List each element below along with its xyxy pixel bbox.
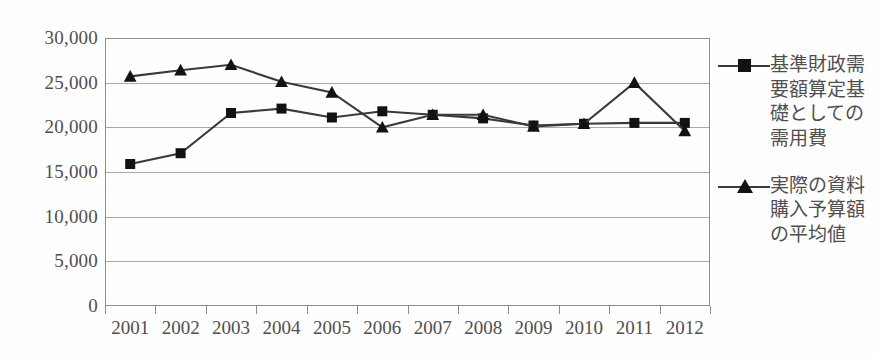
data-point-square	[176, 148, 186, 158]
x-tick	[357, 306, 358, 314]
data-point-square	[277, 104, 287, 114]
x-tick	[408, 306, 409, 314]
x-tick-label: 2009	[515, 317, 553, 339]
x-tick	[155, 306, 156, 314]
data-point-square	[377, 106, 387, 116]
x-tick	[105, 306, 106, 314]
x-tick-label: 2008	[464, 317, 502, 339]
data-point-square	[629, 118, 639, 128]
series-line-0	[130, 109, 685, 164]
series-layer	[105, 38, 710, 306]
x-tick-label: 2012	[666, 317, 704, 339]
y-tick-label: 20,000	[45, 116, 98, 138]
x-tick-label: 2007	[414, 317, 452, 339]
x-tick	[710, 306, 711, 314]
x-tick-label: 2006	[363, 317, 401, 339]
y-tick-label: 0	[88, 295, 98, 317]
data-point-triangle	[225, 58, 238, 70]
x-tick	[206, 306, 207, 314]
y-tick-label: 10,000	[45, 205, 98, 227]
chart-page: 30,00025,00020,00015,00010,0005,0000 200…	[0, 0, 877, 357]
chart-legend: 基準財政需要額算定基礎としての需用費 実際の資料購入予算額の平均値	[718, 52, 873, 269]
x-tick-label: 2004	[262, 317, 300, 339]
data-point-triangle	[628, 76, 641, 88]
square-line-marker-icon	[718, 55, 770, 77]
triangle-line-marker-icon	[718, 176, 770, 198]
x-tick	[660, 306, 661, 314]
x-tick	[307, 306, 308, 314]
legend-item-0[interactable]: 基準財政需要額算定基礎としての需用費	[718, 52, 873, 151]
x-tick-label: 2002	[162, 317, 200, 339]
y-axis: 30,00025,00020,00015,00010,0005,0000	[0, 38, 98, 306]
x-tick-label: 2003	[212, 317, 250, 339]
legend-label-0: 基準財政需要額算定基礎としての需用費	[770, 52, 870, 151]
x-tick-label: 2011	[616, 317, 653, 339]
series-line-1	[130, 65, 685, 131]
x-tick	[559, 306, 560, 314]
y-tick-label: 25,000	[45, 71, 98, 93]
x-tick	[508, 306, 509, 314]
data-point-square	[226, 108, 236, 118]
x-tick	[609, 306, 610, 314]
legend-label-1: 実際の資料購入予算額の平均値	[770, 173, 870, 247]
x-tick	[256, 306, 257, 314]
x-tick	[458, 306, 459, 314]
x-tick-label: 2010	[565, 317, 603, 339]
x-tick-label: 2001	[111, 317, 149, 339]
x-tick-label: 2005	[313, 317, 351, 339]
y-tick-label: 30,000	[45, 27, 98, 49]
x-axis: 2001200220032004200520062007200820092010…	[105, 306, 710, 356]
y-tick-label: 15,000	[45, 161, 98, 183]
data-point-square	[125, 159, 135, 169]
legend-item-1[interactable]: 実際の資料購入予算額の平均値	[718, 173, 873, 247]
data-point-square	[327, 113, 337, 123]
y-tick-label: 5,000	[54, 250, 98, 272]
